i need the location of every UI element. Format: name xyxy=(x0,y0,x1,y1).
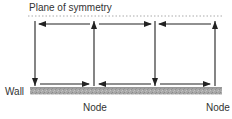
down-arrowhead-1 xyxy=(32,78,38,86)
node-label-1: Node xyxy=(83,103,107,113)
wall-label: Wall xyxy=(5,87,24,97)
flow-diagram xyxy=(0,0,232,119)
wall-ground xyxy=(30,89,222,95)
plane-of-symmetry-label: Plane of symmetry xyxy=(29,3,112,13)
node-label-2: Node xyxy=(206,103,230,113)
up-arrowhead-1 xyxy=(91,21,97,29)
down-arrowhead-2 xyxy=(152,78,158,86)
up-arrowhead-2 xyxy=(212,21,218,29)
